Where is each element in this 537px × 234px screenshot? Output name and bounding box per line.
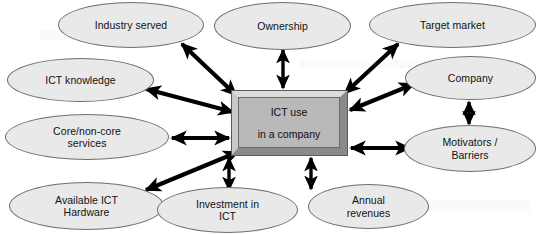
center-node-line2: in a company — [258, 128, 320, 140]
conn-company — [350, 84, 414, 110]
conn-target-market — [345, 44, 398, 93]
conn-ict-knowledge — [146, 89, 233, 112]
node-motivators[interactable]: Motivators / Barriers — [404, 125, 536, 172]
center-node-body: ICT use in a company — [238, 97, 340, 148]
node-investment-ict[interactable]: Investment in ICT — [157, 187, 298, 233]
node-company[interactable]: Company — [405, 56, 536, 100]
center-node-line1: ICT use — [271, 106, 308, 118]
node-label: Industry served — [87, 19, 176, 32]
node-label: Motivators / Barriers — [435, 136, 506, 161]
diagram-canvas: Industry servedOwnershipTarget marketICT… — [0, 0, 537, 234]
node-label: Company — [440, 72, 501, 85]
node-label: Investment in ICT — [188, 198, 267, 223]
node-target-market[interactable]: Target market — [369, 2, 536, 48]
node-ict-knowledge[interactable]: ICT knowledge — [7, 58, 154, 102]
node-label: Ownership — [249, 20, 316, 33]
node-label: Core/non-core services — [45, 125, 129, 150]
node-available-ict-hw[interactable]: Available ICT Hardware — [9, 182, 164, 230]
node-label: Annual revenues — [339, 194, 399, 219]
conn-available-ict-hw — [146, 152, 238, 190]
conn-industry-served — [182, 44, 236, 95]
node-core-non-core[interactable]: Core/non-core services — [5, 114, 169, 160]
center-node[interactable]: ICT use in a company — [231, 90, 348, 156]
node-label: ICT knowledge — [37, 74, 124, 87]
node-label: Target market — [412, 19, 493, 32]
node-label: Available ICT Hardware — [47, 194, 126, 219]
node-industry-served[interactable]: Industry served — [58, 2, 204, 48]
node-annual-revenues[interactable]: Annual revenues — [308, 184, 429, 229]
node-ownership[interactable]: Ownership — [214, 2, 351, 50]
